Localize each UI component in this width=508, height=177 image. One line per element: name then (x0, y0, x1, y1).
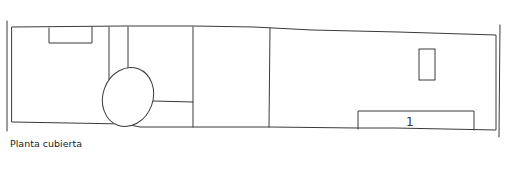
drawing-caption: Planta cubierta (10, 138, 82, 149)
wall-line-4 (269, 28, 270, 127)
right-boundary-line (499, 25, 500, 137)
label-1: 1 (406, 115, 414, 129)
circular-volume (94, 60, 162, 133)
rectangle-bottom-right (358, 111, 474, 130)
building-outline (12, 26, 496, 130)
skylight-right (419, 49, 435, 80)
skylight-top-left (49, 27, 92, 43)
wall-line-5 (153, 101, 193, 102)
roof-plan-drawing: 1 (0, 0, 508, 177)
